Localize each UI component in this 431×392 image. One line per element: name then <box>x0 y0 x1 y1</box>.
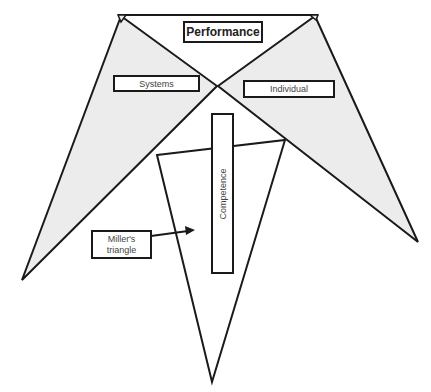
performance-label: Performance <box>183 21 263 43</box>
millers-triangle-label: Miller's triangle <box>91 230 152 259</box>
systems-text: Systems <box>139 79 174 89</box>
diagram-canvas: Performance Systems Individual Competenc… <box>0 0 431 392</box>
competence-label: Competence <box>211 113 234 274</box>
millers-text-line1: Miller's <box>108 234 136 245</box>
competence-text: Competence <box>218 168 228 219</box>
performance-text: Performance <box>186 25 259 39</box>
systems-label: Systems <box>113 75 200 92</box>
individual-label: Individual <box>243 80 335 98</box>
individual-text: Individual <box>270 84 308 94</box>
millers-text-line2: triangle <box>107 245 137 256</box>
